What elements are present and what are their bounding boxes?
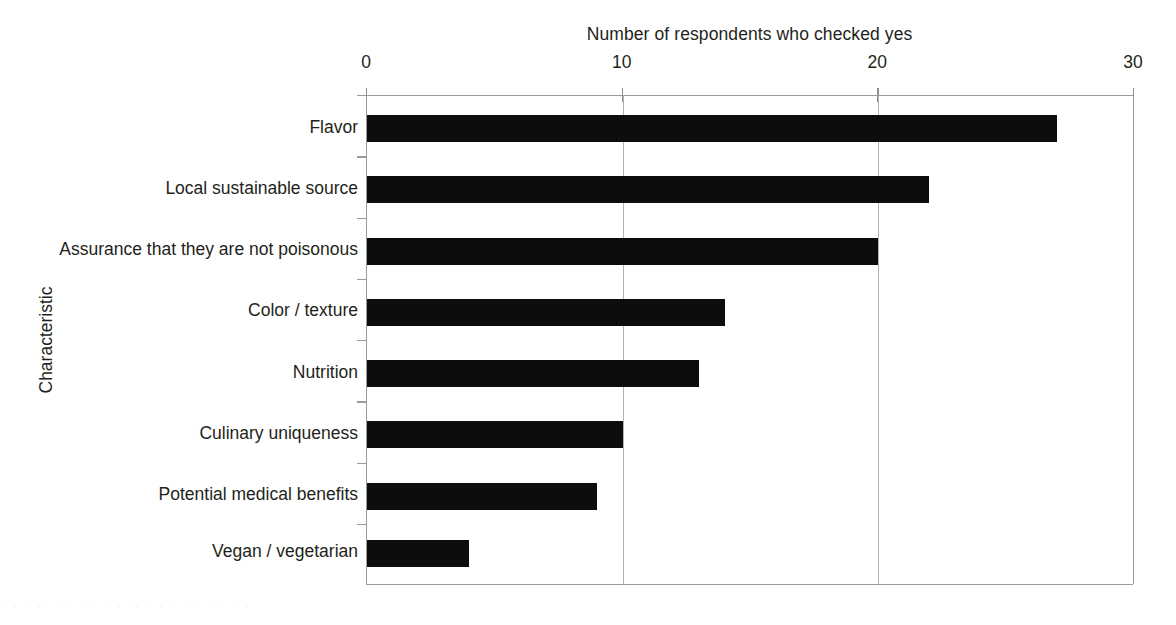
y-tick-label-local-sustainable-source: Local sustainable source <box>0 180 358 198</box>
y-tick-mark-2 <box>357 218 366 219</box>
chart-title: Number of respondents who checked yes <box>366 24 1133 45</box>
gridline-30 <box>1133 96 1134 584</box>
plot-area <box>366 95 1133 585</box>
x-axis-tick-labels: 0 10 20 30 <box>0 52 1176 78</box>
y-tick-label-assurance-not-poisonous: Assurance that they are not poisonous <box>0 241 358 259</box>
bar-chart: Number of respondents who checked yes 0 … <box>0 0 1176 625</box>
y-tick-mark-0 <box>357 95 366 96</box>
bar-vegan-vegetarian <box>367 540 469 567</box>
y-tick-mark-5 <box>357 401 366 402</box>
y-tick-mark-3 <box>357 279 366 280</box>
bar-nutrition <box>367 360 699 387</box>
bar-assurance-not-poisonous <box>367 238 878 265</box>
gridline-20 <box>878 96 879 584</box>
x-tick-label-20: 20 <box>868 52 887 73</box>
y-tick-mark-7 <box>357 524 366 525</box>
bar-local-sustainable-source <box>367 176 929 203</box>
bar-potential-medical-benefits <box>367 483 597 510</box>
bar-flavor <box>367 115 1057 142</box>
y-tick-label-flavor: Flavor <box>0 119 358 137</box>
y-tick-label-potential-medical-benefits: Potential medical benefits <box>0 486 358 504</box>
y-tick-label-nutrition: Nutrition <box>0 364 358 382</box>
x-tick-label-30: 30 <box>1123 52 1142 73</box>
bar-color-texture <box>367 299 725 326</box>
gridline-10 <box>623 96 624 584</box>
y-tick-label-color-texture: Color / texture <box>0 302 358 320</box>
bar-culinary-uniqueness <box>367 421 623 448</box>
y-tick-mark-1 <box>357 156 366 157</box>
y-tick-mark-4 <box>357 340 366 341</box>
y-tick-mark-6 <box>357 463 366 464</box>
y-tick-label-culinary-uniqueness: Culinary uniqueness <box>0 425 358 443</box>
y-tick-label-vegan-vegetarian: Vegan / vegetarian <box>0 543 358 561</box>
y-axis-title: Characteristic <box>36 240 57 440</box>
x-tick-label-10: 10 <box>612 52 631 73</box>
x-tick-label-0: 0 <box>361 52 371 73</box>
scan-artifact-strip: · · · ·· · · · · · · ·· · · · · · · · · … <box>0 596 1176 625</box>
